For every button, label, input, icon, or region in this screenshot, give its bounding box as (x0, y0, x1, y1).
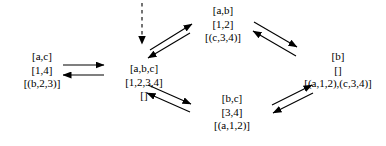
node-right-line-3: [(a,1,2),(c,3,4)] (292, 77, 384, 91)
node-bottom-line-3: [(a,1,2)] (194, 119, 270, 133)
node-left-line-2: [1,4] (2, 64, 82, 78)
node-left-line-1: [a,c] (2, 50, 82, 64)
node-right-line-1: [b] (292, 50, 384, 64)
node-top-line-2: [1,2] (186, 18, 260, 32)
node-left[interactable]: [a,c] [1,4] [(b,2,3)] (2, 50, 82, 91)
node-left-line-3: [(b,2,3)] (2, 77, 82, 91)
edge-top-to-right (254, 22, 297, 47)
edge-top-to-center (148, 33, 190, 58)
node-center[interactable]: [a,b,c] [1,2,3,4] [] (108, 62, 180, 103)
node-bottom-line-2: [3,4] (194, 106, 270, 120)
node-bottom-line-1: [b,c] (194, 92, 270, 106)
node-top-line-1: [a,b] (186, 4, 260, 18)
node-right[interactable]: [b] [] [(a,1,2),(c,3,4)] (292, 50, 384, 91)
node-bottom[interactable]: [b,c] [3,4] [(a,1,2)] (194, 92, 270, 133)
node-top-line-3: [(c,3,4)] (186, 31, 260, 45)
node-top[interactable]: [a,b] [1,2] [(c,3,4)] (186, 4, 260, 45)
edge-right-to-bottom (273, 93, 313, 113)
node-center-line-3: [] (108, 89, 180, 103)
diagram-canvas: [a,c] [1,4] [(b,2,3)] [a,b,c] [1,2,3,4] … (0, 0, 386, 146)
node-center-line-2: [1,2,3,4] (108, 76, 180, 90)
node-center-line-1: [a,b,c] (108, 62, 180, 76)
node-right-line-2: [] (292, 64, 384, 78)
